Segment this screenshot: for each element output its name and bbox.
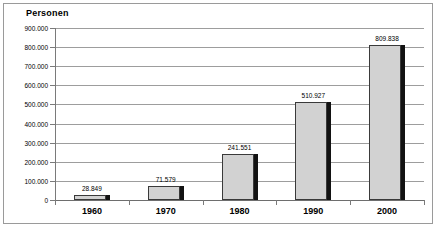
y-tick-mark: [50, 85, 55, 86]
bar-1990[interactable]: 510.927: [295, 28, 331, 200]
y-tick-mark: [50, 66, 55, 67]
x-tick-label-1990: 1990: [303, 206, 323, 216]
bar-shadow: [180, 186, 184, 200]
y-tick-label: 600.000: [4, 82, 48, 89]
bar-body: [369, 45, 401, 200]
y-tick-mark: [50, 181, 55, 182]
x-tick-mark: [129, 200, 130, 205]
y-tick-label: 0: [4, 197, 48, 204]
bar-1960[interactable]: 28.849: [74, 28, 110, 200]
bar-chart: Personen 28.84971.579241.551510.927809.8…: [0, 0, 438, 229]
bar-value-label: 28.849: [82, 185, 102, 192]
x-axis-line: [55, 200, 424, 201]
x-tick-mark: [276, 200, 277, 205]
x-tick-mark: [350, 200, 351, 205]
y-tick-mark: [50, 28, 55, 29]
x-tick-label-1980: 1980: [229, 206, 249, 216]
y-axis-line: [55, 28, 56, 201]
y-tick-mark: [50, 104, 55, 105]
bar-value-label: 71.579: [156, 176, 176, 183]
bar-body: [148, 186, 180, 200]
plot-area: 28.84971.579241.551510.927809.838: [55, 28, 424, 200]
x-tick-label-1960: 1960: [82, 206, 102, 216]
y-tick-label: 400.000: [4, 120, 48, 127]
bar-1980[interactable]: 241.551: [222, 28, 258, 200]
x-tick-mark: [424, 200, 425, 205]
y-tick-label: 900.000: [4, 25, 48, 32]
bar-2000[interactable]: 809.838: [369, 28, 405, 200]
x-tick-mark: [203, 200, 204, 205]
y-tick-mark: [50, 200, 55, 201]
y-tick-mark: [50, 162, 55, 163]
y-tick-label: 500.000: [4, 101, 48, 108]
y-tick-label: 700.000: [4, 63, 48, 70]
y-tick-label: 200.000: [4, 158, 48, 165]
bar-value-label: 510.927: [302, 92, 326, 99]
bar-body: [295, 102, 327, 200]
y-tick-label: 100.000: [4, 177, 48, 184]
y-tick-mark: [50, 143, 55, 144]
y-tick-label: 300.000: [4, 139, 48, 146]
bar-value-label: 241.551: [228, 144, 252, 151]
y-tick-mark: [50, 47, 55, 48]
bar-shadow: [254, 154, 258, 200]
x-tick-mark: [55, 200, 56, 205]
bar-1970[interactable]: 71.579: [148, 28, 184, 200]
y-tick-label: 800.000: [4, 44, 48, 51]
y-tick-mark: [50, 124, 55, 125]
y-axis-ticks: 0100.000200.000300.000400.000500.000600.…: [0, 0, 48, 229]
bar-value-label: 809.838: [375, 35, 399, 42]
x-tick-label-1970: 1970: [156, 206, 176, 216]
bar-shadow: [327, 102, 331, 200]
bar-body: [222, 154, 254, 200]
x-tick-label-2000: 2000: [377, 206, 397, 216]
bar-shadow: [401, 45, 405, 200]
